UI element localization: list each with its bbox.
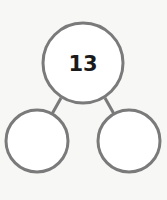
whole-value: 13	[68, 52, 97, 76]
left-connector-line	[52, 98, 61, 114]
left-part-circle[interactable]	[6, 110, 68, 172]
right-part-circle[interactable]	[98, 110, 160, 172]
right-part-node[interactable]	[98, 110, 160, 172]
left-part-node[interactable]	[6, 110, 68, 172]
number-bond-diagram: 13	[0, 0, 167, 200]
right-connector-line	[105, 98, 114, 114]
whole-node: 13	[43, 23, 123, 103]
